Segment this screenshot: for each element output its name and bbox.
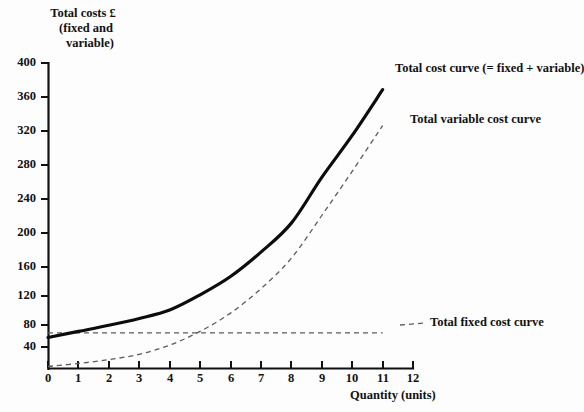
x-tick-label-0: 0 [38, 371, 58, 386]
y-axis-title-line3: variable) [24, 36, 142, 51]
x-tick-label-9: 9 [312, 371, 332, 386]
x-tick-label-8: 8 [281, 371, 301, 386]
x-tick-label-5: 5 [190, 371, 210, 386]
y-tick-label-280: 280 [2, 157, 36, 172]
total-cost-curve [48, 90, 383, 338]
x-tick-label-2: 2 [99, 371, 119, 386]
y-tick-label-40: 40 [2, 339, 36, 354]
x-axis-ticks [48, 361, 413, 368]
total-cost-curve-label: Total cost curve (= fixed + variable) [395, 61, 584, 76]
fixed-cost-curve-label: Total fixed cost curve [430, 315, 544, 330]
y-tick-label-200: 200 [2, 225, 36, 240]
fixed-cost-leader-line [400, 323, 425, 325]
x-tick-label-4: 4 [160, 371, 180, 386]
x-tick-label-11: 11 [373, 371, 393, 386]
y-tick-label-80: 80 [2, 317, 36, 332]
x-tick-label-7: 7 [251, 371, 271, 386]
y-tick-label-400: 400 [2, 55, 36, 70]
y-tick-label-360: 360 [2, 89, 36, 104]
y-tick-label-160: 160 [2, 259, 36, 274]
y-axis-ticks [41, 63, 48, 347]
variable-cost-curve-label: Total variable cost curve [410, 112, 541, 127]
y-axis-title-line1: Total costs £ [24, 6, 142, 21]
x-tick-label-10: 10 [342, 371, 362, 386]
y-tick-label-120: 120 [2, 288, 36, 303]
x-tick-label-3: 3 [129, 371, 149, 386]
y-tick-label-320: 320 [2, 123, 36, 138]
x-tick-label-6: 6 [221, 371, 241, 386]
y-tick-label-240: 240 [2, 191, 36, 206]
x-axis-title: Quantity (units) [350, 388, 436, 403]
x-tick-label-1: 1 [68, 371, 88, 386]
y-axis-title: Total costs £ (fixed and variable) [24, 6, 142, 50]
cost-curves-chart: Total costs £ (fixed and variable) 400 3… [0, 0, 584, 412]
y-axis-title-line2: (fixed and [24, 21, 142, 36]
x-tick-label-12: 12 [403, 371, 423, 386]
